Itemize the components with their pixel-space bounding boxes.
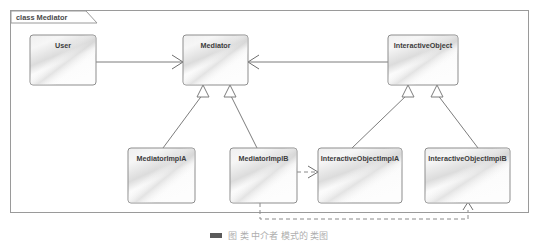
- uml-class-diagram: class Mediator Mediator : association (o…: [0, 0, 539, 242]
- figure-caption: 图 类 中介者 模式的 类图: [0, 228, 539, 242]
- class-box-mediator[interactable]: Mediator: [183, 35, 248, 85]
- caption-text: 图 类 中介者 模式的 类图: [228, 231, 328, 241]
- class-box-mediator-impl-b[interactable]: MediatorImplB: [230, 148, 297, 203]
- class-box-interactive-object-label: InteractiveObject: [394, 41, 453, 50]
- frame-tab-label: class Mediator: [16, 13, 67, 22]
- class-box-mediator-label: Mediator: [201, 41, 231, 50]
- class-box-interactive-impl-a[interactable]: InteractiveObjectImplA: [318, 148, 402, 203]
- class-box-mediator-impl-a-label: MediatorImplA: [137, 154, 187, 163]
- class-box-user[interactable]: User: [30, 35, 96, 85]
- class-box-interactive-object[interactable]: InteractiveObject: [388, 35, 458, 85]
- class-box-mediator-impl-b-label: MediatorImplB: [239, 154, 289, 163]
- caption-swatch: [210, 233, 222, 238]
- diagram-canvas: class Mediator Mediator : association (o…: [0, 0, 539, 242]
- class-box-user-label: User: [55, 41, 71, 50]
- class-box-mediator-impl-a[interactable]: MediatorImplA: [128, 148, 195, 203]
- class-box-interactive-impl-b-label: InteractiveObjectImplB: [428, 154, 506, 163]
- class-box-interactive-impl-a-label: InteractiveObjectImplA: [321, 154, 399, 163]
- class-box-interactive-impl-b[interactable]: InteractiveObjectImplB: [425, 148, 510, 203]
